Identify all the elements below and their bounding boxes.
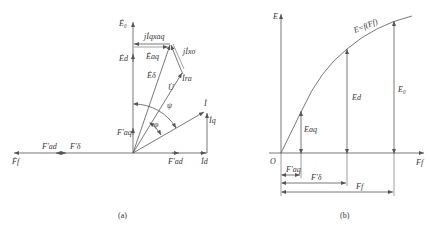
figure-canvas: Ė₀ jİqxaq Ėd Ėaq jİxσ Ėδ İra U̇ ψ İ φ İq… — [0, 0, 430, 229]
caption-a: (a) — [118, 211, 127, 220]
jixsigma-vector — [171, 45, 181, 70]
label-ff-dim: Ff — [355, 182, 365, 191]
label-eaq: Ėaq — [145, 52, 159, 61]
label-faq: F′aq — [116, 128, 132, 137]
label-id: İd — [200, 157, 209, 166]
label-ira: İra — [181, 74, 192, 83]
phasor-diagram: Ė₀ jİqxaq Ėd Ėaq jİxσ Ėδ İra U̇ ψ İ φ İq… — [11, 19, 216, 220]
label-jiqxaq: jİqxaq — [143, 32, 164, 41]
label-fdelta: F′δ — [69, 142, 81, 151]
label-fad-left: F′ad — [41, 142, 58, 151]
magnetization-curve-chart: E E=f(Ff) E₀ Ed Eaq O Ff F′aq F′δ Ff (b) — [269, 12, 425, 220]
label-eaq: Eaq — [303, 125, 317, 134]
label-i: İ — [203, 99, 207, 108]
label-ff: Ḟf — [11, 157, 21, 166]
label-jixsigma: jİxσ — [182, 47, 196, 56]
label-curve: E=f(Ff) — [351, 17, 379, 35]
edelta-vector — [133, 45, 170, 153]
label-ed: Ed — [351, 93, 362, 102]
label-ff-axis: Ff — [415, 158, 425, 167]
label-psi: ψ — [167, 101, 173, 110]
label-e-axis: E — [272, 12, 278, 21]
label-ed: Ėd — [118, 54, 129, 63]
label-fdelta: F′δ — [310, 173, 322, 182]
label-edelta: Ėδ — [146, 71, 156, 80]
u-vector — [133, 73, 182, 153]
label-fad-right: F′ad — [167, 157, 184, 166]
label-faq: F′aq — [285, 165, 301, 174]
label-u: U̇ — [168, 83, 175, 92]
label-iq: İq — [208, 116, 216, 125]
label-phi: φ — [154, 120, 159, 129]
caption-b: (b) — [340, 211, 350, 220]
label-origin: O — [270, 157, 276, 166]
label-e0: E₀ — [397, 85, 406, 94]
label-e0: Ė₀ — [118, 19, 127, 28]
